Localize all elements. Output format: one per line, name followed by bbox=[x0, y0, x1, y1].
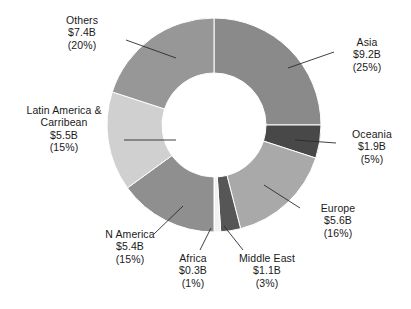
slice-label-europe-value: $5.6B bbox=[302, 214, 374, 226]
slice-label-latin-america-name-line1: Latin America & bbox=[6, 104, 122, 116]
slice-label-africa-value: $0.3B bbox=[164, 264, 222, 276]
slice-label-others-value: $7.4B bbox=[40, 26, 124, 38]
slice-label-asia-percent: (25%) bbox=[336, 61, 398, 73]
slice-label-europe-name: Europe bbox=[302, 202, 374, 214]
donut-slice-others[interactable] bbox=[112, 18, 214, 109]
slice-label-middle-east: Middle East $1.1B (3%) bbox=[224, 252, 310, 289]
slice-label-asia: Asia $9.2B (25%) bbox=[336, 36, 398, 73]
donut-slice-group bbox=[107, 18, 321, 232]
slice-label-asia-value: $9.2B bbox=[336, 48, 398, 60]
slice-label-middle-east-name: Middle East bbox=[224, 252, 310, 264]
slice-label-africa-percent: (1%) bbox=[164, 277, 222, 289]
slice-label-latin-america-name-line2: Carribean bbox=[6, 116, 122, 128]
slice-label-latin-america-percent: (15%) bbox=[6, 141, 122, 153]
slice-label-others-name: Others bbox=[40, 14, 124, 26]
slice-label-n-america-value: $5.4B bbox=[84, 240, 176, 252]
slice-label-oceania-percent: (5%) bbox=[338, 153, 406, 165]
slice-label-latin-america-value: $5.5B bbox=[6, 129, 122, 141]
slice-label-oceania-value: $1.9B bbox=[338, 140, 406, 152]
slice-label-others: Others $7.4B (20%) bbox=[40, 14, 124, 51]
slice-label-n-america-name: N America bbox=[84, 228, 176, 240]
slice-label-africa-name: Africa bbox=[164, 252, 222, 264]
donut-chart-figure: Others $7.4B (20%) Latin America & Carri… bbox=[0, 0, 411, 309]
slice-label-oceania-name: Oceania bbox=[338, 128, 406, 140]
slice-label-europe: Europe $5.6B (16%) bbox=[302, 202, 374, 239]
slice-label-europe-percent: (16%) bbox=[302, 227, 374, 239]
slice-label-n-america: N America $5.4B (15%) bbox=[84, 228, 176, 265]
slice-label-oceania: Oceania $1.9B (5%) bbox=[338, 128, 406, 165]
slice-label-latin-america: Latin America & Carribean $5.5B (15%) bbox=[6, 104, 122, 154]
slice-label-africa: Africa $0.3B (1%) bbox=[164, 252, 222, 289]
slice-label-middle-east-percent: (3%) bbox=[224, 277, 310, 289]
slice-label-asia-name: Asia bbox=[336, 36, 398, 48]
slice-label-middle-east-value: $1.1B bbox=[224, 264, 310, 276]
slice-label-n-america-percent: (15%) bbox=[84, 253, 176, 265]
donut-slice-asia[interactable] bbox=[214, 18, 321, 125]
slice-label-others-percent: (20%) bbox=[40, 39, 124, 51]
